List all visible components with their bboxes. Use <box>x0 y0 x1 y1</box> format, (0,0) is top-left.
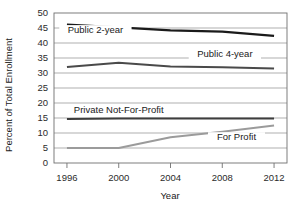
svg-text:Percent of Total Enrollment: Percent of Total Enrollment <box>3 38 14 152</box>
y-tick-label: 15 <box>37 112 48 123</box>
y-tick-label: 35 <box>37 52 48 63</box>
y-tick-label: 50 <box>37 7 48 18</box>
y-tick-label: 45 <box>37 22 48 33</box>
series-inline-labels: Public 2-yearPublic 4-yearPrivate Not-Fo… <box>59 24 265 143</box>
y-tick-label: 10 <box>37 127 48 138</box>
series-line <box>67 63 274 69</box>
series-label: Public 2-year <box>68 24 123 35</box>
y-axis-tick-labels: 05101520253035404550 <box>37 7 48 168</box>
series-label: Public 4-year <box>197 48 252 59</box>
y-axis-title: Percent of Total Enrollment <box>3 38 14 152</box>
x-tick-label: 1996 <box>56 172 77 183</box>
y-tick-label: 5 <box>43 142 48 153</box>
series-label: For Profit <box>217 131 256 142</box>
x-axis-tick-marks <box>67 163 274 168</box>
enrollment-line-chart: 05101520253035404550 1996200020042008201… <box>0 0 298 207</box>
y-tick-label: 40 <box>37 37 48 48</box>
chart-canvas: 05101520253035404550 1996200020042008201… <box>0 0 298 207</box>
svg-text:Year: Year <box>160 190 179 201</box>
y-tick-label: 20 <box>37 97 48 108</box>
x-tick-label: 2004 <box>160 172 181 183</box>
series-label: Private Not-For-Profit <box>74 104 164 115</box>
y-tick-label: 0 <box>43 157 48 168</box>
x-tick-label: 2000 <box>108 172 129 183</box>
grid-lines <box>54 28 287 148</box>
y-tick-label: 30 <box>37 67 48 78</box>
x-tick-label: 2012 <box>263 172 284 183</box>
y-tick-label: 25 <box>37 82 48 93</box>
x-axis-tick-labels: 19962000200420082012 <box>56 172 284 183</box>
x-axis-title: Year <box>160 190 179 201</box>
x-tick-label: 2008 <box>212 172 233 183</box>
